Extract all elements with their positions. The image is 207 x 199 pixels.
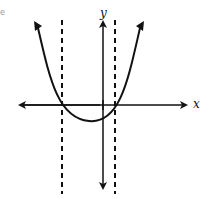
- graph-figure: e y x: [0, 0, 207, 199]
- graph-canvas: [0, 0, 207, 199]
- x-axis-label: x: [193, 97, 200, 111]
- parabola-curve: [38, 28, 140, 121]
- y-axis-label: y: [100, 6, 107, 20]
